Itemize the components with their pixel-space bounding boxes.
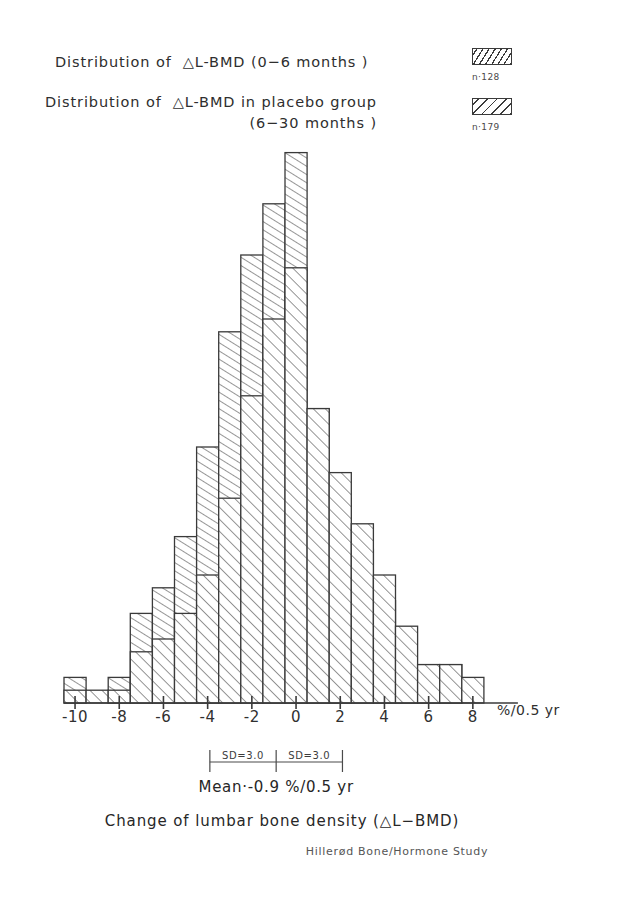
bar-series-1 — [285, 268, 307, 703]
bar-series-1 — [241, 396, 263, 703]
bar-series-1 — [130, 652, 152, 703]
x-tick-label: -6 — [155, 708, 171, 726]
x-tick-label: -10 — [62, 708, 88, 726]
bar-series-1 — [152, 639, 174, 703]
histogram-figure: Distribution of △L-BMD (0−6 months ) n·1… — [0, 0, 640, 898]
histogram-plot — [0, 0, 640, 898]
series-1-bars — [64, 268, 484, 703]
x-tick-label: 8 — [468, 708, 478, 726]
x-tick-label: -4 — [200, 708, 216, 726]
bar-series-1 — [440, 665, 462, 703]
x-tick-label: 6 — [424, 708, 434, 726]
sd-left-label: SD=3.0 — [222, 750, 264, 761]
x-tick-label: 2 — [335, 708, 345, 726]
bar-series-1 — [175, 613, 197, 703]
x-tick-label: 4 — [379, 708, 389, 726]
x-axis-unit-label: %/0.5 yr — [497, 702, 560, 718]
bar-series-1 — [329, 473, 351, 703]
x-tick-label: -2 — [244, 708, 260, 726]
mean-label: Mean·-0.9 %/0.5 yr — [199, 778, 354, 796]
bar-series-1 — [86, 690, 108, 703]
chart-credit: Hillerød Bone/Hormone Study — [306, 845, 488, 858]
x-tick-label: -8 — [111, 708, 127, 726]
x-tick-label: 0 — [291, 708, 301, 726]
sd-right-label: SD=3.0 — [288, 750, 330, 761]
bar-series-1 — [396, 626, 418, 703]
bar-series-1 — [197, 575, 219, 703]
bar-series-1 — [263, 319, 285, 703]
bar-series-1 — [307, 409, 329, 703]
bar-series-1 — [219, 498, 241, 703]
bar-series-1 — [351, 524, 373, 703]
chart-caption: Change of lumbar bone density (△L−BMD) — [105, 812, 459, 830]
bar-series-1 — [373, 575, 395, 703]
